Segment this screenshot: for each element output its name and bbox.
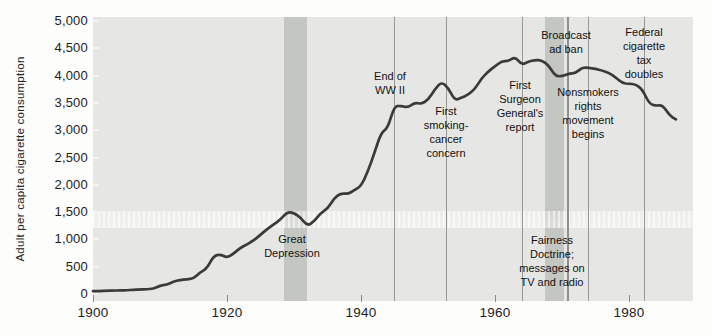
cigarette-consumption-chart: Adult per capita cigarette consumption 0… [0,0,712,336]
x-tick-label: 1900 [63,305,123,320]
broadcast-ad-ban-label: Broadcastad ban [541,28,591,56]
y-tick-mark [93,266,99,268]
y-tick-mark [93,102,99,104]
x-tick-label: 1920 [197,305,257,320]
y-tick-mark [93,20,99,22]
y-tick-label: 0 [30,287,88,301]
x-tick-mark [93,295,94,302]
fairness-doctrine-label: FairnessDoctrine;messages onTV and radio [519,233,584,289]
end-of-wwii-label: End ofWW II [374,69,406,97]
end-of-wwii-line [394,17,395,301]
y-tick-label: 4,000 [30,69,88,83]
y-tick-mark [93,47,99,49]
y-tick-label: 1,000 [30,232,88,246]
y-tick-mark [93,129,99,131]
y-tick-mark [93,157,99,159]
y-axis-title: Adult per capita cigarette consumption [14,56,26,261]
y-tick-label: 4,500 [30,41,88,55]
x-tick-mark [227,295,228,302]
x-tick-label: 1940 [331,305,391,320]
x-tick-label: 1960 [465,305,525,320]
y-tick-label: 2,000 [30,178,88,192]
x-tick-mark [495,295,496,302]
y-tick-label: 500 [30,260,88,274]
x-tick-mark [629,295,630,302]
y-tick-mark [93,184,99,186]
y-tick-mark [93,211,99,213]
smoking-cancer-concern-label: Firstsmoking-cancerconcern [424,104,469,160]
nonsmokers-rights-label: Nonsmokersrightsmovementbegins [557,85,619,141]
great-depression-label: GreatDepression [264,232,320,260]
x-tick-label: 1980 [599,305,659,320]
y-tick-label: 2,500 [30,151,88,165]
cigarette-tax-doubles-label: Federalcigarettetaxdoubles [623,25,665,81]
y-tick-mark [93,75,99,77]
nonsmokers-rights-line [588,17,589,301]
surgeon-general-report-label: FirstSurgeonGeneral'sreport [497,78,544,134]
y-tick-label: 3,500 [30,96,88,110]
y-tick-label: 3,000 [30,123,88,137]
y-tick-label: 1,500 [30,205,88,219]
x-tick-mark [361,295,362,302]
y-tick-label: 5,000 [30,14,88,28]
y-tick-mark [93,238,99,240]
